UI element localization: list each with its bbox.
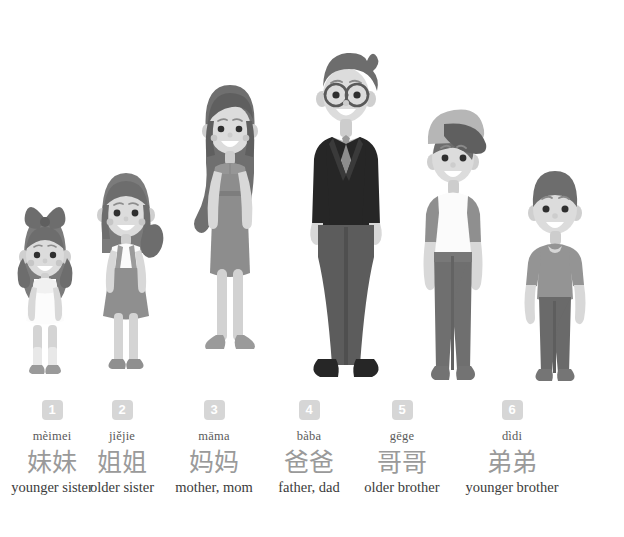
hanzi-2: 姐姐 <box>83 449 161 476</box>
number-badge-4: 4 <box>299 400 320 420</box>
vocab-entry-5: 5 gēge 哥哥 older brother <box>352 400 452 496</box>
mother-illustration <box>186 75 274 400</box>
number-badge-3: 3 <box>204 400 225 420</box>
number-badge-5: 5 <box>392 400 413 420</box>
number-badge-6: 6 <box>502 400 523 420</box>
pinyin-6: dìdi <box>452 429 572 444</box>
younger-sister-illustration <box>10 195 80 400</box>
number-badge-1: 1 <box>42 400 63 420</box>
meaning-3: mother, mom <box>162 479 266 496</box>
meaning-6: younger brother <box>452 479 572 496</box>
hanzi-3: 妈妈 <box>162 449 266 476</box>
younger-sister-figure <box>10 195 80 400</box>
father-figure <box>300 37 396 400</box>
younger-brother-illustration <box>516 155 600 400</box>
number-badge-2: 2 <box>112 400 133 420</box>
older-sister-figure <box>88 155 164 400</box>
meaning-5: older brother <box>352 479 452 496</box>
pinyin-2: jiějie <box>83 429 161 444</box>
pinyin-5: gēge <box>352 429 452 444</box>
hanzi-5: 哥哥 <box>352 449 452 476</box>
older-brother-figure <box>414 100 504 400</box>
hanzi-4: 爸爸 <box>265 449 353 476</box>
pinyin-4: bàba <box>265 429 353 444</box>
hanzi-6: 弟弟 <box>452 449 572 476</box>
meaning-4: father, dad <box>265 479 353 496</box>
older-sister-illustration <box>88 155 164 400</box>
older-brother-illustration <box>414 100 504 400</box>
mother-figure <box>186 75 274 400</box>
vocab-entry-2: 2 jiějie 姐姐 older sister <box>83 400 161 496</box>
vocab-entry-3: 3 māma 妈妈 mother, mom <box>162 400 266 496</box>
father-illustration <box>300 37 396 400</box>
illustration-stage: 1 mèimei 妹妹 younger sister 2 jiějie 姐姐 o… <box>0 0 624 537</box>
vocab-entry-6: 6 dìdi 弟弟 younger brother <box>452 400 572 496</box>
younger-brother-figure <box>516 155 600 400</box>
vocab-entry-4: 4 bàba 爸爸 father, dad <box>265 400 353 496</box>
pinyin-3: māma <box>162 429 266 444</box>
vocabulary-label-row: 1 mèimei 妹妹 younger sister 2 jiějie 姐姐 o… <box>0 400 624 537</box>
meaning-2: older sister <box>83 479 161 496</box>
